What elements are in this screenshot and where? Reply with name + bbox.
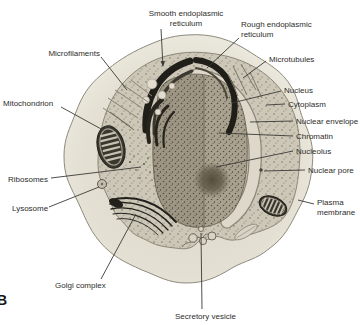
nucleolus [194, 162, 230, 198]
nuclear-pore-dot [259, 168, 263, 172]
figure-panel: Smooth endoplasmicreticulumRough endopla… [0, 0, 360, 325]
cell-illustration [0, 0, 360, 325]
panel-letter: B [0, 292, 7, 308]
